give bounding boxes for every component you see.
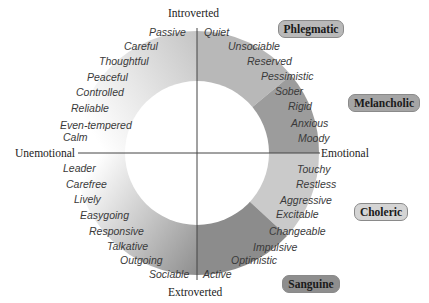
trait-thoughtful: Thoughtful bbox=[99, 55, 149, 67]
trait-unsociable: Unsociable bbox=[228, 40, 280, 52]
badge-phlegmatic: Phlegmatic bbox=[278, 20, 344, 38]
badge-melancholic: Melancholic bbox=[348, 94, 420, 112]
trait-touchy: Touchy bbox=[297, 163, 330, 175]
trait-reserved: Reserved bbox=[247, 55, 292, 67]
trait-controlled: Controlled bbox=[76, 86, 124, 98]
axis-label-emotional: Emotional bbox=[321, 147, 369, 160]
badge-choleric: Choleric bbox=[354, 203, 408, 221]
trait-calm: Calm bbox=[63, 131, 88, 143]
trait-changeable: Changeable bbox=[269, 225, 326, 237]
axis-label-unemotional: Unemotional bbox=[15, 147, 75, 160]
trait-lively: Lively bbox=[74, 193, 101, 205]
trait-even-tempered: Even-tempered bbox=[60, 119, 132, 131]
trait-pessimistic: Pessimistic bbox=[261, 70, 314, 82]
temperament-diagram: Introverted Extroverted Unemotional Emot… bbox=[0, 0, 429, 303]
trait-sober: Sober bbox=[275, 85, 303, 97]
trait-moody: Moody bbox=[298, 132, 330, 144]
trait-sociable: Sociable bbox=[149, 268, 189, 280]
trait-easygoing: Easygoing bbox=[80, 209, 129, 221]
trait-aggressive: Aggressive bbox=[280, 194, 332, 206]
trait-reliable: Reliable bbox=[71, 102, 109, 114]
trait-restless: Restless bbox=[296, 178, 336, 190]
trait-rigid: Rigid bbox=[288, 100, 312, 112]
axis-label-extroverted: Extroverted bbox=[168, 286, 222, 299]
trait-anxious: Anxious bbox=[291, 117, 328, 129]
trait-carefree: Carefree bbox=[66, 178, 107, 190]
trait-passive: Passive bbox=[149, 26, 186, 38]
trait-active: Active bbox=[203, 268, 232, 280]
trait-leader: Leader bbox=[63, 162, 96, 174]
trait-excitable: Excitable bbox=[276, 208, 319, 220]
trait-quiet: Quiet bbox=[204, 26, 229, 38]
trait-optimistic: Optimistic bbox=[231, 254, 277, 266]
trait-responsive: Responsive bbox=[89, 225, 144, 237]
axis-label-introverted: Introverted bbox=[168, 7, 219, 20]
trait-peaceful: Peaceful bbox=[87, 71, 128, 83]
trait-outgoing: Outgoing bbox=[120, 254, 163, 266]
trait-talkative: Talkative bbox=[107, 240, 148, 252]
badge-sanguine: Sanguine bbox=[282, 275, 340, 293]
trait-careful: Careful bbox=[124, 40, 158, 52]
trait-impulsive: Impulsive bbox=[253, 241, 297, 253]
